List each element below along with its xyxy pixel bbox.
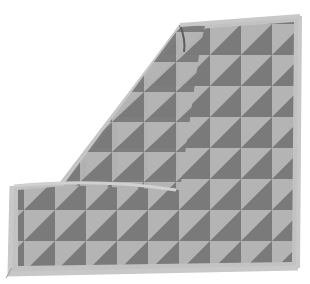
blanket-photo bbox=[0, 0, 310, 284]
folded-corner bbox=[14, 25, 205, 190]
